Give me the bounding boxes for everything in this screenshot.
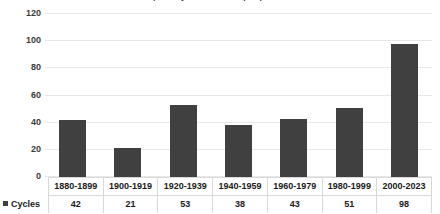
table-cell-value: 53: [158, 196, 213, 214]
bar-slot: [377, 13, 432, 177]
table-cell-category: 1980-1999: [322, 178, 377, 196]
square-marker-icon: [3, 201, 8, 206]
bar-slot: [100, 13, 155, 177]
table-cell-value: 98: [377, 196, 432, 214]
bar-slot: [45, 13, 100, 177]
bar-slot: [211, 13, 266, 177]
table-cell-category: 2000-2023: [377, 178, 432, 196]
y-tick-label: 80: [1, 63, 41, 72]
table-corner-cell: [0, 178, 49, 196]
data-table: 1880-1899 1900-1919 1920-1939 1940-1959 …: [0, 177, 432, 213]
legend-entry-cycles: Cycles: [0, 196, 49, 214]
bar-chart-with-data-table: Tropical cyclone counts per period 120 1…: [0, 0, 440, 213]
y-axis: 120 100 80 60 40 20 0: [0, 13, 41, 177]
table-cell-category: 1900-1919: [103, 178, 158, 196]
table-cell-value: 42: [49, 196, 104, 214]
bar-2000-2023[interactable]: [391, 44, 418, 177]
table-cell-category: 1940-1959: [213, 178, 268, 196]
table-row-values: Cycles 42 21 53 38 43 51 98: [0, 196, 432, 214]
bar-series-cycles: [45, 13, 432, 177]
table-cell-category: 1960-1979: [267, 178, 322, 196]
table-cell-value: 38: [213, 196, 268, 214]
y-tick-label: 60: [1, 91, 41, 100]
bar-slot: [321, 13, 376, 177]
table-cell-value: 51: [322, 196, 377, 214]
table-cell-category: 1920-1939: [158, 178, 213, 196]
y-tick-label: 20: [1, 145, 41, 154]
y-tick-label: 100: [1, 36, 41, 45]
table-cell-value: 21: [103, 196, 158, 214]
bar-slot: [156, 13, 211, 177]
bar-slot: [266, 13, 321, 177]
y-tick-label: 40: [1, 118, 41, 127]
bar-1960-1979[interactable]: [280, 119, 307, 177]
bar-1900-1919[interactable]: [114, 148, 141, 177]
table-cell-value: 43: [267, 196, 322, 214]
bar-1920-1939[interactable]: [170, 105, 197, 177]
chart-title: Tropical cyclone counts per period: [48, 0, 378, 1]
bar-1940-1959[interactable]: [225, 125, 252, 177]
table-row-categories: 1880-1899 1900-1919 1920-1939 1940-1959 …: [0, 178, 432, 196]
legend-label: Cycles: [11, 199, 40, 209]
bar-1980-1999[interactable]: [336, 108, 363, 177]
y-tick-label: 120: [1, 9, 41, 18]
bar-1880-1899[interactable]: [59, 120, 86, 177]
table-cell-category: 1880-1899: [49, 178, 104, 196]
